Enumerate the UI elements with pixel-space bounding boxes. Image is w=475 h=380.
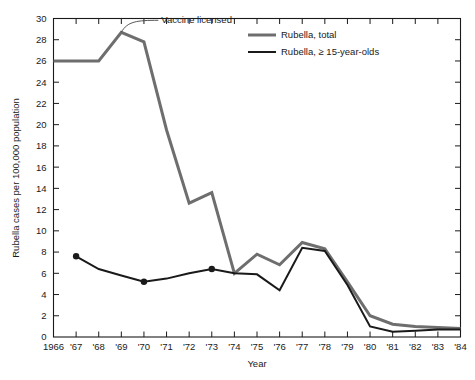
y-tick-label: 6 <box>41 268 46 279</box>
y-axis-title: Rubella cases per 100,000 population <box>10 98 21 258</box>
x-tick-label: '68 <box>93 341 105 352</box>
x-tick-label: '80 <box>364 341 376 352</box>
y-tick-label: 22 <box>36 98 47 109</box>
x-tick-label: '82 <box>409 341 421 352</box>
data-point-marker <box>209 266 215 272</box>
y-tick-label: 24 <box>36 77 47 88</box>
rubella-incidence-chart: 024681012141618202224262830 1966'67'68'6… <box>0 0 475 380</box>
x-tick-label: '84 <box>454 341 466 352</box>
legend-label-1: Rubella, ≥ 15-year-olds <box>281 46 379 57</box>
x-tick-label: '75 <box>251 341 263 352</box>
y-tick-label: 14 <box>36 183 47 194</box>
y-tick-label: 12 <box>36 204 47 215</box>
chart-canvas: 024681012141618202224262830 1966'67'68'6… <box>0 0 475 380</box>
x-axis-title: Year <box>247 358 266 369</box>
x-tick-label: 1966 <box>43 341 64 352</box>
x-tick-label: '79 <box>341 341 353 352</box>
y-tick-label: 28 <box>36 34 47 45</box>
y-tick-label: 2 <box>41 310 46 321</box>
data-point-marker <box>73 253 79 259</box>
x-tick-label: '81 <box>386 341 398 352</box>
y-tick-label: 30 <box>36 13 47 24</box>
y-tick-label: 20 <box>36 119 47 130</box>
x-tick-label: '78 <box>319 341 331 352</box>
annotation-label: Vaccine licensed <box>161 14 232 25</box>
y-tick-label: 18 <box>36 140 47 151</box>
x-tick-label: '83 <box>432 341 444 352</box>
y-tick-label: 16 <box>36 162 47 173</box>
data-point-marker <box>141 279 147 285</box>
y-tick-label: 8 <box>41 246 46 257</box>
x-tick-label: '74 <box>228 341 240 352</box>
x-tick-label: '70 <box>138 341 150 352</box>
x-tick-label: '77 <box>296 341 308 352</box>
x-tick-label: '72 <box>183 341 195 352</box>
chart-background <box>0 0 475 380</box>
y-tick-label: 4 <box>41 289 46 300</box>
x-tick-label: '69 <box>115 341 127 352</box>
x-tick-label: '73 <box>206 341 218 352</box>
x-tick-label: '71 <box>160 341 172 352</box>
legend-label-0: Rubella, total <box>281 29 336 40</box>
y-tick-label: 26 <box>36 55 47 66</box>
x-tick-label: '67 <box>70 341 82 352</box>
y-tick-label: 10 <box>36 225 47 236</box>
x-tick-label: '76 <box>273 341 285 352</box>
